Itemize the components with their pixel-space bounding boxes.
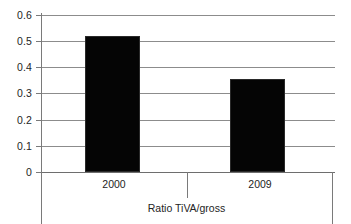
y-tick-0.4	[36, 67, 41, 68]
y-tick-label-0.1: 0.1	[0, 141, 32, 152]
y-tick-0.3	[36, 93, 41, 94]
y-axis-line	[41, 13, 42, 185]
frame-right-border	[332, 172, 333, 224]
y-tick-0.5	[36, 41, 41, 42]
y-tick-label-0.3: 0.3	[0, 88, 32, 99]
category-label-2009: 2009	[188, 179, 332, 190]
y-tick-label-0.5: 0.5	[0, 36, 32, 47]
category-band: 2000 2009	[41, 172, 332, 198]
y-tick-0.1	[36, 146, 41, 147]
frame-left-border	[41, 172, 42, 224]
y-tick-label-0: 0	[0, 167, 32, 178]
y-tick-0.2	[36, 120, 41, 121]
plot-area	[41, 15, 335, 172]
y-tick-label-0.6: 0.6	[0, 10, 32, 21]
category-label-2000: 2000	[41, 179, 187, 190]
gridline-0.6	[41, 15, 335, 16]
y-tick-label-0.4: 0.4	[0, 62, 32, 73]
y-tick-0.6	[36, 15, 41, 16]
x-axis-title: Ratio TiVA/gross	[41, 203, 332, 214]
bar-2000	[85, 36, 140, 172]
y-tick-label-0.2: 0.2	[0, 115, 32, 126]
bar-chart: 0.6 0.5 0.4 0.3 0.2 0.1 0 2000 2009 Rati…	[0, 0, 351, 224]
axis-title-band: Ratio TiVA/gross	[41, 198, 332, 224]
bar-2009	[230, 79, 285, 172]
